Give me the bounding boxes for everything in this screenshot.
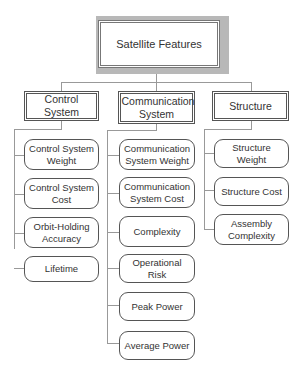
- leaf-label: Control System Cost: [27, 182, 96, 206]
- connector: [107, 193, 119, 194]
- connector: [204, 153, 214, 154]
- connector: [14, 268, 24, 269]
- category-label: Communication System: [122, 95, 192, 121]
- leaf-label: Assembly Complexity: [217, 218, 286, 242]
- category-communication-system: Communication System: [118, 91, 195, 124]
- leaf-label: Operational Risk: [122, 257, 192, 281]
- leaf-communication-system-weight: Communication System Weight: [119, 139, 195, 170]
- leaf-control-system-weight: Control System Weight: [24, 139, 99, 170]
- leaf-label: Communication System Weight: [122, 143, 192, 167]
- category-label: Structure: [229, 100, 272, 113]
- connector: [156, 74, 157, 92]
- leaf-label: Structure Cost: [221, 186, 282, 198]
- leaf-label: Average Power: [125, 340, 190, 352]
- leaf-average-power: Average Power: [119, 331, 195, 360]
- connector: [107, 268, 119, 269]
- leaf-label: Control System Weight: [27, 143, 96, 167]
- connector: [107, 232, 119, 233]
- root-node-satellite-features: Satellite Features: [98, 20, 220, 68]
- leaf-lifetime: Lifetime: [24, 256, 99, 282]
- category-label: Control System: [27, 93, 96, 119]
- leaf-control-system-cost: Control System Cost: [24, 178, 99, 209]
- connector: [61, 82, 252, 83]
- connector: [14, 129, 62, 130]
- leaf-peak-power: Peak Power: [119, 292, 195, 321]
- leaf-label: Structure Weight: [217, 142, 286, 166]
- category-control-system: Control System: [24, 91, 99, 121]
- leaf-orbit-holding-accuracy: Orbit-Holding Accuracy: [24, 217, 99, 248]
- category-structure: Structure: [212, 91, 289, 121]
- connector: [14, 155, 24, 156]
- leaf-structure-weight: Structure Weight: [214, 139, 289, 168]
- connector: [107, 305, 119, 306]
- connector: [107, 130, 157, 131]
- leaf-label: Communication System Cost: [122, 181, 192, 205]
- connector: [107, 155, 119, 156]
- connector: [107, 343, 119, 344]
- leaf-label: Orbit-Holding Accuracy: [27, 221, 96, 245]
- leaf-label: Complexity: [134, 226, 181, 238]
- leaf-complexity: Complexity: [119, 216, 195, 247]
- leaf-label: Peak Power: [131, 301, 182, 313]
- connector: [204, 229, 214, 230]
- leaf-label: Lifetime: [45, 263, 78, 275]
- leaf-operational-risk: Operational Risk: [119, 254, 195, 283]
- connector: [14, 194, 24, 195]
- connector: [14, 129, 15, 249]
- leaf-communication-system-cost: Communication System Cost: [119, 177, 195, 208]
- connector: [107, 130, 108, 343]
- connector: [204, 190, 214, 191]
- connector: [204, 129, 205, 230]
- root-label: Satellite Features: [116, 38, 202, 50]
- connector: [204, 129, 252, 130]
- connector: [14, 233, 24, 234]
- leaf-structure-cost: Structure Cost: [214, 177, 289, 206]
- leaf-assembly-complexity: Assembly Complexity: [214, 214, 289, 245]
